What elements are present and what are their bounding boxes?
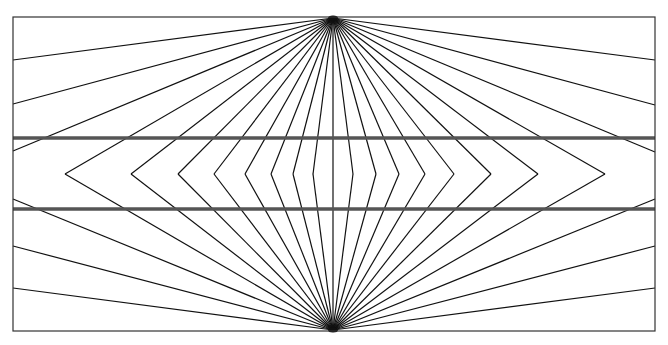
edge-ray bbox=[333, 199, 655, 330]
edge-ray bbox=[13, 18, 333, 104]
ray-segment bbox=[293, 174, 333, 330]
hering-illusion-figure bbox=[0, 0, 668, 345]
apex-point bbox=[328, 16, 338, 21]
ray-segment bbox=[333, 174, 376, 330]
apex-point bbox=[328, 328, 338, 333]
ray-segment bbox=[333, 18, 491, 174]
ray-segment bbox=[65, 174, 333, 330]
ray-segment bbox=[313, 174, 333, 330]
edge-ray bbox=[333, 246, 655, 330]
edge-ray bbox=[13, 199, 333, 330]
edge-ray bbox=[13, 246, 333, 330]
ray-segment bbox=[333, 18, 376, 174]
ray-segment bbox=[65, 18, 333, 174]
edge-ray bbox=[333, 18, 655, 105]
edge-ray bbox=[13, 288, 333, 330]
edge-ray bbox=[13, 18, 333, 60]
ray-segment bbox=[293, 18, 333, 174]
ray-segment bbox=[333, 18, 605, 174]
edge-ray bbox=[333, 288, 655, 330]
illusion-canvas bbox=[0, 0, 668, 345]
ray-segment bbox=[178, 174, 333, 330]
ray-segment bbox=[313, 18, 333, 174]
ray-segment bbox=[333, 174, 605, 330]
radiating-lines bbox=[13, 16, 655, 333]
ray-segment bbox=[245, 174, 333, 330]
ray-segment bbox=[245, 18, 333, 174]
ray-segment bbox=[178, 18, 333, 174]
edge-ray bbox=[13, 18, 333, 151]
ray-segment bbox=[333, 174, 491, 330]
figure-frame bbox=[13, 17, 655, 331]
edge-ray bbox=[333, 18, 655, 60]
